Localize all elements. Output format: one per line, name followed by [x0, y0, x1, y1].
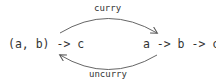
- uncurry-label: uncurry: [89, 69, 127, 79]
- curry-arrow: [60, 19, 157, 34]
- curry-label: curry: [94, 3, 121, 13]
- uncurried-type-node: (a, b) -> c: [8, 37, 84, 51]
- uncurry-arrow: [60, 55, 157, 70]
- curried-type-node: a -> b -> c: [143, 37, 216, 51]
